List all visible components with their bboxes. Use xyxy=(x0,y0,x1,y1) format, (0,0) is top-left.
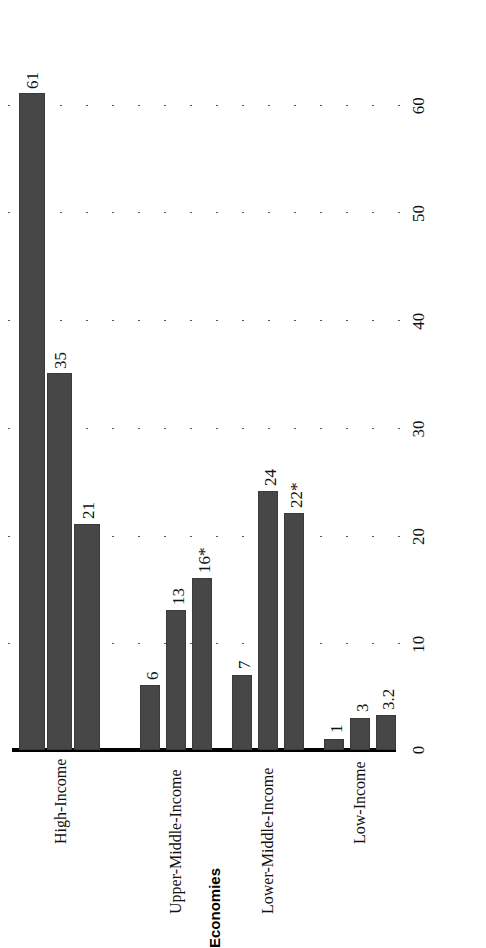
bar-label-upper-middle-income-3: 16* xyxy=(196,548,213,574)
bar-label-high-income-2: 35 xyxy=(52,352,69,369)
bar-upper-middle-income-1 xyxy=(140,685,160,750)
tick-label-60: 60 xyxy=(410,97,427,114)
bar-high-income-3 xyxy=(19,93,45,750)
tick-label-40: 40 xyxy=(410,313,427,330)
gridline-40 xyxy=(8,320,400,321)
gridline-60 xyxy=(8,105,400,106)
plot-area: 1 3 3.2 7 24 22* 6 13 16* 21 35 xyxy=(18,52,390,752)
bar-high-income-2 xyxy=(47,373,72,750)
group-label-lower-middle-income: Lower-Middle-Income xyxy=(260,768,276,914)
bar-label-upper-middle-income-1: 6 xyxy=(144,672,161,681)
tick-label-0: 0 xyxy=(410,746,427,755)
tick-label-30: 30 xyxy=(410,420,427,437)
bar-low-income-1 xyxy=(324,739,344,750)
bar-label-lower-middle-income-3: 22* xyxy=(288,483,305,509)
bar-upper-middle-income-2 xyxy=(166,610,186,750)
bar-low-income-3 xyxy=(376,716,396,751)
group-label-low-income: Low-Income xyxy=(352,761,368,844)
bar-label-lower-middle-income-2: 24 xyxy=(262,469,279,486)
group-label-high-income: High-Income xyxy=(53,759,69,844)
tick-label-50: 50 xyxy=(410,205,427,222)
bar-upper-middle-income-3 xyxy=(192,578,212,750)
tick-label-10: 10 xyxy=(410,636,427,653)
group-label-upper-middle-income: Upper-Middle-Income xyxy=(168,769,184,914)
bar-label-upper-middle-income-2: 13 xyxy=(170,588,187,605)
bar-low-income-2 xyxy=(350,718,370,750)
bar-lower-middle-income-2 xyxy=(258,492,278,751)
bar-label-high-income-1: 21 xyxy=(80,502,97,519)
bar-lower-middle-income-1 xyxy=(232,675,252,750)
gridline-50 xyxy=(8,213,400,214)
bar-lower-middle-income-3 xyxy=(284,513,304,750)
bar-label-lower-middle-income-1: 7 xyxy=(236,661,253,670)
bar-label-high-income-3: 61 xyxy=(24,72,41,89)
axis-title-economies: Economies xyxy=(206,868,223,948)
bar-label-low-income-3: 3.2 xyxy=(380,689,397,710)
bar-label-low-income-1: 1 xyxy=(328,725,345,734)
tick-label-20: 20 xyxy=(410,528,427,545)
bar-high-income-1 xyxy=(74,524,100,750)
bar-label-low-income-2: 3 xyxy=(354,704,371,713)
